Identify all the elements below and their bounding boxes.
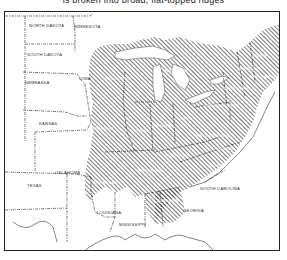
label-indiana: INDIANA [153,123,171,128]
label-north-dakota: NORTH DAKOTA [29,23,64,28]
label-south-dakota: SOUTH DAKOTA [27,52,62,57]
label-arkansas: ARKANSAS [93,180,117,185]
label-alabama: ALABAMA [157,198,178,203]
label-south-carolina: SOUTH CAROLINA [200,186,240,191]
label-minnesota: MINNESOTA [74,24,100,29]
label-georgia: GEORGIA [183,208,204,213]
map-caption: is broken into broad, flat-topped ridges [0,0,287,5]
label-new-hampshire: NEW HAMPSHIRE [249,74,280,79]
label-ohio: OHIO [180,116,192,121]
label-iowa: IOWA [79,76,91,81]
label-tennessee: TENNESSEE [135,168,162,173]
label-louisiana: LOUISIANA [97,210,121,215]
label-kentucky: KENTUCKY [165,153,189,158]
map-frame: NORTH DAKOTA MINNESOTA SOUTH DAKOTA NEBR… [4,11,280,251]
shaded-region [85,24,280,222]
label-pennsylvania: PENNSYLVANIA [205,103,239,108]
label-maine: MAINE [253,53,267,58]
label-north-carolina: NORTH CAROLINA [210,163,250,168]
us-map: NORTH DAKOTA MINNESOTA SOUTH DAKOTA NEBR… [5,12,280,251]
label-vermont: VERMONT [237,66,260,71]
label-illinois: ILLINOIS [130,128,149,133]
label-oklahoma: OKLAHOMA [55,170,80,175]
label-michigan: MICHIGAN [165,68,188,73]
label-new-york: NEW YORK [225,86,249,91]
label-mississippi: MISSISSIPPI [119,222,146,227]
label-west-virginia: WEST VIRGINIA [195,133,229,138]
label-kansas: KANSAS [39,121,57,126]
label-missouri: MISSOURI [91,126,113,131]
label-virginia: VIRGINIA [215,146,235,151]
label-texas: TEXAS [27,183,42,188]
label-wisconsin: WISCONSIN [105,76,131,81]
label-nebraska: NEBRASKA [25,80,49,85]
